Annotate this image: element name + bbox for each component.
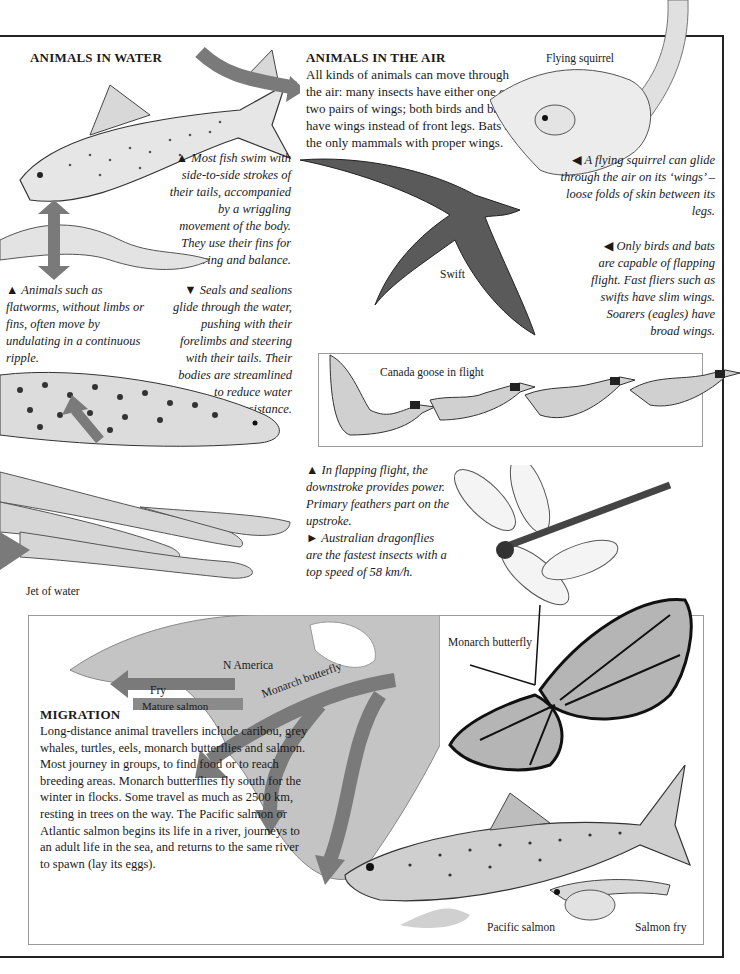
migration-body: Long-distance animal travellers include … [40,723,310,872]
squid-illustration [0,462,295,582]
migration-heading: MIGRATION [40,707,120,723]
flight-caption: ◀ Only birds and bats are capable of fla… [585,238,715,340]
air-heading: ANIMALS IN THE AIR [306,50,446,66]
salmon-fry-illustration [545,875,675,925]
salmon-fry-label: Salmon fry [635,921,686,933]
canada-goose-illustration [310,335,740,445]
bottom-rule [0,956,724,958]
mature-salmon-arrow-label: Mature salmon [142,700,208,712]
flapping-caption: ▲ In flapping flight, the downstroke pro… [306,462,451,530]
seal-illustration [0,365,290,455]
right-rule [722,35,724,958]
jet-of-water-label: Jet of water [26,585,80,597]
dragonfly-caption: ► Australian dragonflies are the fastest… [306,530,451,581]
dragonfly-illustration [450,465,680,615]
flatworm-illustration [0,200,215,280]
monarch-butterfly-illustration [440,595,700,775]
squirrel-caption: ◀ A flying squirrel can glide through th… [560,152,715,220]
fry-arrow-label: Fry [150,684,166,696]
flatworm-caption: ▲ Animals such as flatworms, without lim… [6,282,146,367]
air-intro: All kinds of animals can move through th… [306,66,521,151]
n-america-label: N America [223,659,273,671]
swift-illustration [300,155,550,340]
swift-label: Swift [440,268,465,280]
